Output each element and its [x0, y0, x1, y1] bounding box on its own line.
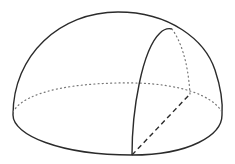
hemisphere-svg — [0, 0, 235, 164]
base-back-arc — [13, 83, 222, 112]
dome-outline — [13, 12, 222, 115]
base-front-arc — [13, 115, 222, 155]
base-chord — [132, 94, 190, 155]
section-arc — [132, 29, 172, 155]
hemisphere-diagram: hemisphere with a vertical cutting secti… — [0, 0, 235, 164]
hidden-vertical-edge — [172, 29, 190, 94]
